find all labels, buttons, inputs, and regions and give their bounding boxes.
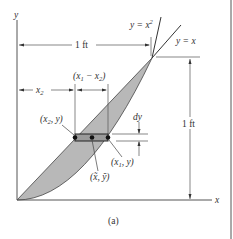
arrow-icon: [102, 89, 107, 92]
point-x1-y: [106, 135, 111, 140]
parabola-label: y = x2: [129, 18, 154, 30]
left-point-label: (x2, y): [40, 114, 63, 125]
diff-label: (x1 − x2): [73, 71, 105, 82]
height-dimension-label: 1 ft: [182, 119, 195, 129]
arrow-icon: [77, 89, 82, 92]
arrow-icon: [19, 44, 24, 47]
area-between-curves-figure: y x y = x2 y = x 1 ft 1 ft x2 (x1 − x2) …: [0, 0, 233, 239]
arrow-icon: [19, 89, 24, 92]
line-label: y = x: [175, 36, 196, 46]
right-point-label: (x1, y): [111, 157, 134, 168]
y-axis-label: y: [13, 10, 19, 20]
centroid-point: [90, 135, 95, 140]
arrow-icon: [138, 141, 141, 146]
arrow-icon: [189, 194, 192, 199]
centroid-label: (x̃, ỹ): [90, 172, 110, 183]
arrow-icon: [138, 129, 141, 134]
point-x2-y: [73, 135, 78, 140]
arrow-icon: [69, 89, 74, 92]
parabola-curve: [152, 17, 161, 58]
leader-line: [109, 140, 122, 157]
leader-line: [62, 125, 74, 135]
x-axis-label: x: [214, 195, 220, 205]
arrow-icon: [145, 44, 150, 47]
figure-caption: (a): [108, 216, 119, 227]
arrow-icon: [189, 59, 192, 64]
dy-label: dy: [133, 112, 143, 122]
width-dimension-label: 1 ft: [75, 40, 88, 50]
